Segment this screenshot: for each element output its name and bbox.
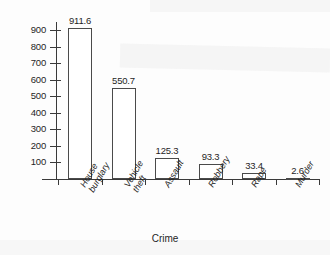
y-axis-line xyxy=(56,22,57,180)
y-tick-mark xyxy=(50,63,61,64)
bar xyxy=(68,28,92,179)
x-tick-mark xyxy=(58,180,59,185)
y-tick-label-text: 200 xyxy=(16,141,46,151)
y-tick-label: 700 xyxy=(14,58,46,68)
y-tick-label-text: 900 xyxy=(16,25,46,35)
y-tick-label: 600 xyxy=(14,75,46,85)
bar-value-label: 125.3 xyxy=(145,146,189,156)
y-tick-label: 500 xyxy=(14,91,46,101)
bar-value-label: 911.6 xyxy=(58,16,102,26)
bar-chart-figure: 100200300400500600700800900 911.6550.712… xyxy=(0,0,330,255)
y-tick-label-text: 300 xyxy=(16,124,46,134)
plot-area: 100200300400500600700800900 911.6550.712… xyxy=(0,0,330,255)
y-tick-label: 400 xyxy=(14,108,46,118)
x-axis-title: Crime xyxy=(0,233,330,244)
x-tick-mark xyxy=(276,180,277,185)
y-tick-mark xyxy=(50,96,61,97)
y-tick-mark xyxy=(50,162,61,163)
y-tick-mark xyxy=(50,146,61,147)
y-tick-label-text: 800 xyxy=(16,42,46,52)
y-tick-label: 800 xyxy=(14,42,46,52)
y-tick-label-text: 100 xyxy=(16,157,46,167)
y-tick-mark xyxy=(50,80,61,81)
x-tick-mark xyxy=(189,180,190,185)
y-tick-label-text: 700 xyxy=(16,58,46,68)
y-tick-mark xyxy=(50,129,61,130)
y-tick-mark xyxy=(50,30,61,31)
y-tick-label: 300 xyxy=(14,124,46,134)
y-tick-mark xyxy=(50,47,61,48)
y-tick-mark xyxy=(50,113,61,114)
y-tick-label: 100 xyxy=(14,157,46,167)
x-tick-mark xyxy=(319,180,320,185)
y-tick-label-text: 500 xyxy=(16,91,46,101)
y-tick-label-text: 600 xyxy=(16,75,46,85)
y-tick-label: 900 xyxy=(14,25,46,35)
bar-value-label: 33.4 xyxy=(232,161,276,171)
y-tick-label: 200 xyxy=(14,141,46,151)
x-tick-mark xyxy=(232,180,233,185)
y-tick-label-text: 400 xyxy=(16,108,46,118)
bar-value-label: 550.7 xyxy=(102,76,146,86)
